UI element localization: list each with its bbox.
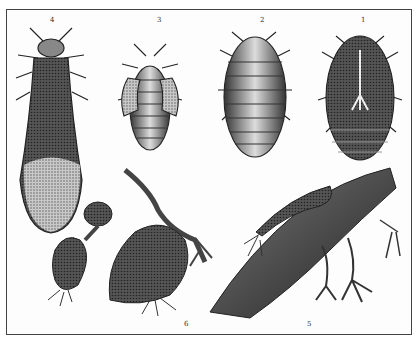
figure-2-dorsal-insect bbox=[218, 32, 292, 157]
engraving-artwork bbox=[0, 0, 419, 341]
figure-1-ventral-insect bbox=[318, 36, 402, 160]
figure-label-3: 3 bbox=[157, 16, 161, 24]
figure-5-root-with-galls bbox=[210, 168, 400, 318]
figure-3-nymph bbox=[118, 44, 182, 150]
figure-4-winged-insect bbox=[16, 28, 88, 233]
figure-label-1: 1 bbox=[361, 16, 365, 24]
figure-label-6: 6 bbox=[184, 320, 188, 328]
figure-label-2: 2 bbox=[260, 16, 264, 24]
figure-label-5: 5 bbox=[307, 320, 311, 328]
figure-label-4: 4 bbox=[50, 16, 54, 24]
